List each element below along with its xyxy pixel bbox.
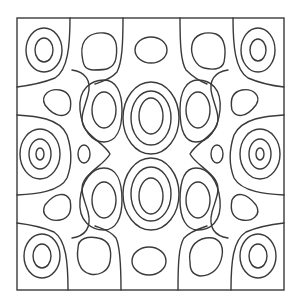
contour-plot xyxy=(0,0,300,307)
lower-middle-contours xyxy=(44,158,258,230)
upper-middle-contours xyxy=(44,80,258,154)
bottom-row-contours xyxy=(17,223,284,290)
top-row-contours xyxy=(17,18,284,87)
